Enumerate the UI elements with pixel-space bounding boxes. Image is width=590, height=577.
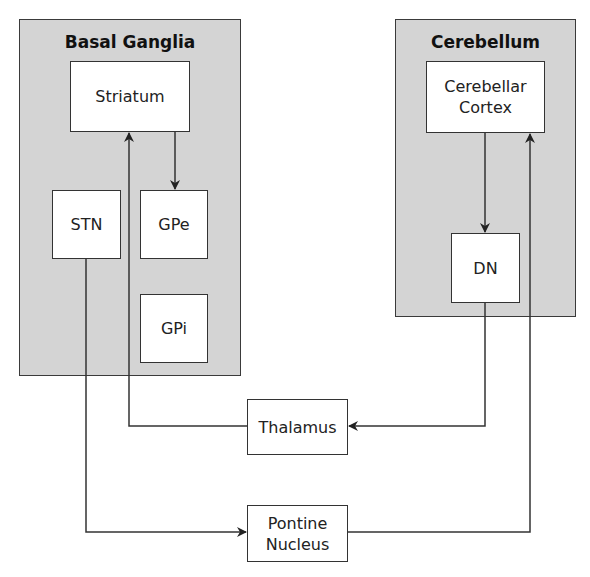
striatum-node: Striatum (70, 61, 190, 132)
thalamus-node: Thalamus (247, 399, 348, 455)
stn-node: STN (52, 190, 121, 259)
arrow-dn-to-thalamus (349, 303, 485, 426)
cerebellum-title: Cerebellum (396, 32, 575, 52)
gpe-node: GPe (140, 190, 208, 259)
dn-node: DN (451, 233, 520, 303)
gpi-node: GPi (140, 294, 208, 363)
basal-ganglia-title: Basal Ganglia (20, 32, 240, 52)
pontine-nucleus-node: Pontine Nucleus (247, 505, 348, 562)
cerebellar-cortex-node: Cerebellar Cortex (426, 61, 545, 133)
